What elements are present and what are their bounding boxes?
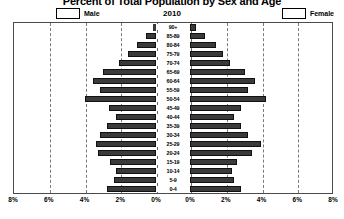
male-bar — [103, 69, 156, 75]
male-half — [14, 148, 156, 157]
female-half — [190, 50, 332, 59]
pyramid-row: 45-49 — [14, 104, 332, 113]
female-half — [190, 95, 332, 104]
x-axis: 8%6%4%2%0%0%2%4%6%8% — [13, 196, 333, 208]
age-group-label: 75-79 — [156, 51, 190, 57]
male-half — [14, 23, 156, 32]
male-bar — [98, 150, 156, 156]
female-bar — [190, 177, 234, 183]
male-half — [14, 157, 156, 166]
pyramid-row: 80-84 — [14, 41, 332, 50]
female-half — [190, 166, 332, 175]
female-bar — [190, 159, 237, 165]
female-bar — [190, 168, 232, 174]
x-tick-right-2: 2% — [221, 196, 230, 203]
pyramid-row: 5-9 — [14, 175, 332, 184]
male-half — [14, 50, 156, 59]
male-bar — [85, 96, 156, 102]
x-tick-left-0: 0% — [151, 196, 160, 203]
male-bar — [109, 105, 156, 111]
x-tick-right-4: 4% — [257, 196, 266, 203]
age-group-label: 30-34 — [156, 132, 190, 138]
female-half — [190, 113, 332, 122]
female-bar — [190, 123, 241, 129]
population-pyramid-chart: Percent of Total Population by Sex and A… — [0, 0, 344, 219]
pyramid-row: 55-59 — [14, 86, 332, 95]
female-half — [190, 175, 332, 184]
male-bar — [116, 114, 156, 120]
male-half — [14, 130, 156, 139]
pyramid-row: 0-4 — [14, 184, 332, 193]
x-tick-right-6: 6% — [293, 196, 302, 203]
x-tick-right-8: 8% — [328, 196, 337, 203]
female-half — [190, 68, 332, 77]
male-bar — [100, 132, 156, 138]
female-bar — [190, 114, 234, 120]
male-half — [14, 184, 156, 193]
age-group-label: 85-89 — [156, 33, 190, 39]
female-bar — [190, 96, 266, 102]
age-group-label: 60-64 — [156, 78, 190, 84]
female-half — [190, 23, 332, 32]
female-bar — [190, 141, 261, 147]
female-bar — [190, 24, 196, 30]
male-half — [14, 95, 156, 104]
male-bar — [107, 186, 156, 192]
age-group-label: 45-49 — [156, 105, 190, 111]
age-group-label: 55-59 — [156, 87, 190, 93]
male-half — [14, 68, 156, 77]
male-bar — [100, 87, 156, 93]
female-half — [190, 184, 332, 193]
male-bar — [128, 51, 156, 57]
age-group-label: 0-4 — [156, 186, 190, 192]
pyramid-row: 75-79 — [14, 50, 332, 59]
pyramid-row: 15-19 — [14, 157, 332, 166]
age-group-label: 65-69 — [156, 69, 190, 75]
male-half — [14, 86, 156, 95]
female-bar — [190, 87, 248, 93]
male-half — [14, 59, 156, 68]
male-half — [14, 113, 156, 122]
female-half — [190, 157, 332, 166]
female-half — [190, 139, 332, 148]
pyramid-row: 70-74 — [14, 59, 332, 68]
male-bar — [107, 123, 156, 129]
male-half — [14, 104, 156, 113]
pyramid-row: 30-34 — [14, 130, 332, 139]
female-half — [190, 59, 332, 68]
pyramid-row: 25-29 — [14, 139, 332, 148]
age-group-label: 25-29 — [156, 141, 190, 147]
age-group-label: 10-14 — [156, 168, 190, 174]
male-bar — [114, 177, 156, 183]
male-bar — [116, 168, 156, 174]
female-half — [190, 104, 332, 113]
bar-rows: 90+85-8980-8475-7970-7465-6960-6455-5950… — [14, 23, 332, 193]
pyramid-row: 35-39 — [14, 121, 332, 130]
female-bar — [190, 105, 241, 111]
male-half — [14, 121, 156, 130]
female-bar — [190, 42, 216, 48]
age-group-label: 15-19 — [156, 159, 190, 165]
female-half — [190, 77, 332, 86]
female-half — [190, 32, 332, 41]
age-group-label: 20-24 — [156, 150, 190, 156]
pyramid-row: 10-14 — [14, 166, 332, 175]
age-group-label: 80-84 — [156, 42, 190, 48]
female-half — [190, 86, 332, 95]
female-bar — [190, 60, 230, 66]
female-bar — [190, 51, 223, 57]
legend-item-female: Female — [282, 8, 334, 19]
female-bar — [190, 69, 245, 75]
male-bar — [96, 141, 156, 147]
female-bar — [190, 33, 205, 39]
male-bar — [93, 78, 156, 84]
chart-title: Percent of Total Population by Sex and A… — [0, 0, 344, 7]
female-color-swatch — [282, 8, 306, 19]
age-group-label: 90+ — [156, 24, 190, 30]
female-half — [190, 41, 332, 50]
x-tick-left-6: 6% — [44, 196, 53, 203]
x-tick-left-8: 8% — [8, 196, 17, 203]
pyramid-row: 50-54 — [14, 95, 332, 104]
male-bar — [146, 33, 156, 39]
pyramid-row: 90+ — [14, 23, 332, 32]
